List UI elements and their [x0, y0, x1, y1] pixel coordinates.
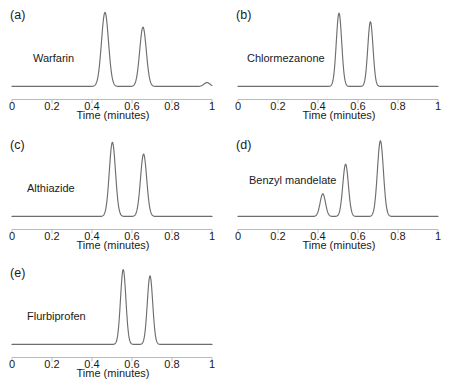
panel-c: (c) Althiazide 00.20.40.60.81 Time (minu…	[0, 130, 226, 260]
x-axis-a: 00.20.40.60.81	[0, 92, 226, 110]
trace-path	[238, 13, 438, 86]
chromatogram-trace-c	[0, 130, 226, 230]
x-axis-d: 00.20.40.60.81	[226, 222, 452, 240]
axis-rule-c	[0, 228, 226, 236]
axis-rule-d	[226, 228, 452, 236]
trace-path	[238, 141, 438, 217]
axis-rule-e	[0, 356, 226, 364]
x-axis-title-e: Time (minutes)	[0, 367, 226, 379]
trace-path	[12, 12, 212, 86]
axis-rule-a	[0, 98, 226, 106]
x-axis-e: 00.20.40.60.81	[0, 350, 226, 368]
x-axis-title-d: Time (minutes)	[226, 239, 452, 251]
trace-path	[12, 270, 212, 345]
chromatogram-trace-b	[226, 0, 452, 100]
chromatogram-trace-e	[0, 258, 226, 358]
plot-area-b	[226, 0, 452, 100]
chromatogram-trace-d	[226, 130, 452, 230]
chromatogram-trace-a	[0, 0, 226, 100]
axis-rule-b	[226, 98, 452, 106]
x-axis-c: 00.20.40.60.81	[0, 222, 226, 240]
panel-b: (b) Chlormezanone 00.20.40.60.81 Time (m…	[226, 0, 452, 130]
x-axis-title-b: Time (minutes)	[226, 109, 452, 121]
panel-d: (d) Benzyl mandelate 00.20.40.60.81 Time…	[226, 130, 452, 260]
plot-area-d	[226, 130, 452, 230]
trace-path	[12, 142, 212, 216]
chromatogram-figure: (a) Warfarin 00.20.40.60.81 Time (minute…	[0, 0, 452, 388]
plot-area-e	[0, 258, 226, 358]
plot-area-a	[0, 0, 226, 100]
x-axis-title-c: Time (minutes)	[0, 239, 226, 251]
plot-area-c	[0, 130, 226, 230]
panel-a: (a) Warfarin 00.20.40.60.81 Time (minute…	[0, 0, 226, 130]
x-axis-b: 00.20.40.60.81	[226, 92, 452, 110]
x-axis-title-a: Time (minutes)	[0, 109, 226, 121]
panel-e: (e) Flurbiprofen 00.20.40.60.81 Time (mi…	[0, 258, 226, 388]
